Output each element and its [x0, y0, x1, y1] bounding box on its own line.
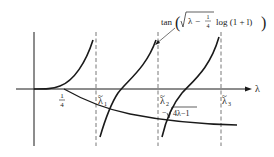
svg-text:(: ( [175, 14, 180, 32]
x-axis-arrow-icon [245, 87, 252, 92]
tick-quarter: 1 4 [59, 92, 65, 109]
svg-text:1: 1 [207, 14, 210, 20]
svg-text:log (1 + l): log (1 + l) [216, 17, 252, 27]
svg-text:1: 1 [60, 92, 64, 100]
svg-text:λ: λ [160, 95, 165, 106]
tan-branch-0 [34, 40, 93, 89]
svg-text:3: 3 [228, 101, 231, 107]
tan-label: tan ( λ − 1 4 log (1 + l) ) [155, 12, 266, 45]
svg-text:4: 4 [60, 101, 64, 109]
svg-text:λ: λ [188, 16, 193, 26]
svg-text:−: − [195, 16, 200, 26]
svg-text:λ: λ [222, 95, 227, 106]
svg-text:): ) [261, 14, 266, 32]
lambda1-label: ~ λ 1 [98, 91, 107, 107]
sqrt-curve [64, 89, 237, 125]
lambda2-label: ~ λ 2 [160, 91, 169, 107]
svg-text:tan: tan [161, 17, 172, 27]
eigenvalue-diagram: λ 1 4 ~ λ 1 ~ λ 2 ~ λ 3 − 4λ−1 tan ( λ [0, 0, 274, 157]
svg-text:2: 2 [166, 101, 169, 107]
svg-text:−: − [162, 108, 167, 117]
svg-text:4λ−1: 4λ−1 [173, 109, 189, 118]
svg-text:1: 1 [104, 101, 107, 107]
sqrt-label: − 4λ−1 [162, 107, 197, 118]
lambda3-label: ~ λ 3 [222, 91, 231, 107]
svg-text:4: 4 [207, 23, 210, 29]
x-axis-label: λ [255, 83, 260, 94]
svg-text:λ: λ [98, 95, 103, 106]
